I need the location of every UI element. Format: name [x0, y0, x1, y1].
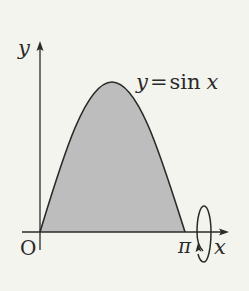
x-axis-label: x: [214, 235, 226, 259]
sine-revolution-diagram: y x O π y=sinx: [0, 0, 249, 291]
function-label: y=sinx: [135, 70, 219, 94]
function-label-y: y: [135, 70, 149, 94]
function-label-sin: sin: [169, 70, 200, 94]
function-label-x: x: [207, 70, 219, 94]
pi-label: π: [177, 234, 192, 258]
shaded-region: [40, 82, 185, 232]
origin-label: O: [20, 236, 36, 260]
function-label-eq: =: [150, 70, 168, 94]
rotation-arrow-icon: [197, 206, 211, 262]
y-axis-label: y: [17, 36, 31, 60]
